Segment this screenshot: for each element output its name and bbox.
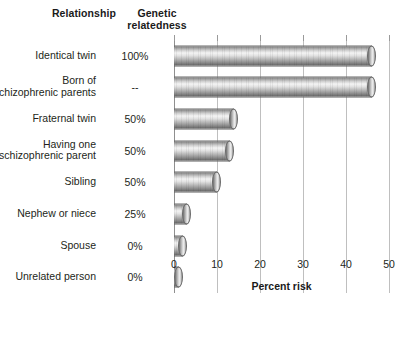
bar-end-cap (229, 109, 238, 130)
chart-row: Nephew or niece25% (174, 201, 389, 227)
bar (174, 203, 187, 224)
gridline-50 (389, 40, 390, 293)
row-genetic-relatedness: 25% (104, 208, 166, 220)
bar (174, 45, 372, 66)
bar (174, 235, 183, 256)
bar (174, 77, 372, 98)
row-genetic-relatedness: -- (104, 81, 166, 93)
axis-tick-30 (303, 35, 304, 41)
row-label: Born of schizophrenic parents (0, 76, 96, 100)
row-genetic-relatedness: 0% (104, 271, 166, 283)
x-tick-label-0: 0 (159, 258, 189, 270)
row-genetic-relatedness: 50% (104, 113, 166, 125)
x-tick-label-50: 50 (374, 258, 398, 270)
chart-row: Identical twin100% (174, 43, 389, 69)
row-genetic-relatedness: 0% (104, 240, 166, 252)
bar-texture (174, 173, 217, 192)
bar (174, 172, 217, 193)
bar-texture (174, 110, 234, 129)
row-label: Unrelated person (0, 271, 96, 283)
x-tick-label-20: 20 (245, 258, 275, 270)
chart-row: Born of schizophrenic parents-- (174, 74, 389, 100)
row-label: Spouse (0, 240, 96, 252)
bar-end-cap (182, 203, 191, 224)
x-tick-label-10: 10 (202, 258, 232, 270)
axis-tick-20 (260, 35, 261, 41)
axis-tick-50 (389, 35, 390, 41)
schizophrenia-risk-chart: Relationship Genetic relatedness Identic… (0, 0, 398, 343)
axis-tick-0 (174, 35, 175, 41)
axis-tick-40 (346, 35, 347, 41)
plot-area: Identical twin100%Born of schizophrenic … (174, 40, 389, 293)
row-label: Having one schizophrenic parent (0, 139, 96, 163)
x-tick-label-30: 30 (288, 258, 318, 270)
chart-row: Sibling50% (174, 169, 389, 195)
axis-tick-10 (217, 35, 218, 41)
chart-row: Fraternal twin50% (174, 106, 389, 132)
x-axis-title: Percent risk (174, 280, 389, 292)
bar-end-cap (212, 172, 221, 193)
row-label: Identical twin (0, 50, 96, 62)
bar-end-cap (367, 45, 376, 66)
chart-row: Having one schizophrenic parent50% (174, 138, 389, 164)
row-genetic-relatedness: 50% (104, 145, 166, 157)
row-genetic-relatedness: 100% (104, 50, 166, 62)
bar (174, 109, 234, 130)
bar-end-cap (367, 77, 376, 98)
bar-end-cap (225, 140, 234, 161)
bar-texture (174, 46, 372, 65)
bar-texture (174, 78, 372, 97)
row-label: Sibling (0, 176, 96, 188)
x-tick-label-40: 40 (331, 258, 361, 270)
bar (174, 140, 230, 161)
row-genetic-relatedness: 50% (104, 176, 166, 188)
bar-end-cap (178, 235, 187, 256)
column-header-genetic-relatedness: Genetic relatedness (118, 8, 196, 31)
bar-texture (174, 141, 230, 160)
row-label: Fraternal twin (0, 113, 96, 125)
chart-row: Spouse0% (174, 233, 389, 259)
row-label: Nephew or niece (0, 208, 96, 220)
